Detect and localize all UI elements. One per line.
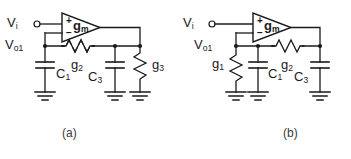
wire-amp-output-b	[291, 28, 320, 47]
amp-plus-sign-a: +	[66, 16, 72, 26]
amp-plus-sign-b: +	[257, 16, 263, 26]
node-dot-c1-b	[256, 44, 260, 48]
amp-label-b: gm	[264, 19, 280, 33]
label-c3-b: C3	[294, 70, 308, 84]
figure-canvas: Vi Vo1 + − gm C1 g2 C3 g3 Vi Vo1 + − gm …	[0, 0, 351, 159]
input-terminal-b	[209, 21, 215, 27]
resistor-g1-b	[230, 46, 242, 92]
node-dot-c3-b	[318, 44, 322, 48]
amp-label-a: gm	[73, 19, 89, 33]
label-c1-a: C1	[56, 67, 70, 81]
amp-minus-sign-a: −	[66, 28, 72, 38]
amp-minus-sign-b: −	[257, 28, 263, 38]
label-vo1-a: Vo1	[5, 38, 23, 52]
caption-a: (a)	[62, 127, 77, 139]
label-vo1-b: Vo1	[194, 38, 212, 52]
node-dot-vo1-b	[234, 44, 238, 48]
label-c3-a: C3	[88, 70, 102, 84]
label-g2-b: g2	[281, 58, 293, 72]
label-vi-a: Vi	[7, 16, 18, 30]
label-g1-b: g1	[212, 57, 224, 71]
label-g3-a: g3	[152, 58, 164, 72]
label-g2-a: g2	[71, 58, 83, 72]
label-vi-b: Vi	[183, 16, 194, 30]
caption-b: (b)	[283, 127, 298, 139]
